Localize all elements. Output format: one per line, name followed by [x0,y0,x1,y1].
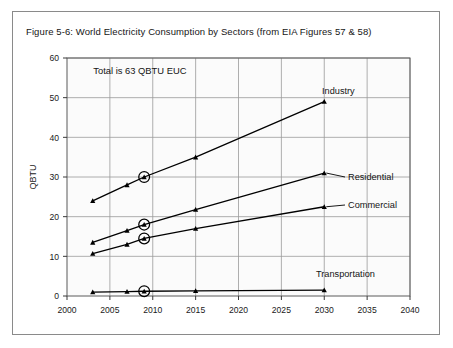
x-axis-tick-label: 2025 [272,305,291,315]
y-axis-tick-label: 50 [49,93,59,103]
x-axis-tick-label: 2000 [57,305,76,315]
series-label-industry: Industry [322,86,355,96]
y-axis-tick-label: 10 [49,252,59,262]
series-label-residential: Residential [348,172,393,182]
y-axis-title: QBTU [28,164,38,189]
x-axis-tick-label: 2040 [400,305,419,315]
y-axis-tick-label: 20 [49,212,59,222]
y-axis-tick-label: 40 [49,133,59,143]
series-label-commercial: Commercial [348,200,397,210]
y-axis-tick-label: 30 [49,172,59,182]
chart-plot-area: 0102030405060200020052010201520202025203… [0,0,453,348]
figure-container: Figure 5-6: World Electricity Consumptio… [0,0,453,348]
x-axis-tick-label: 2015 [186,305,205,315]
x-axis-tick-label: 2020 [229,305,248,315]
chart-annotation: Total is 63 QBTU EUC [93,65,186,76]
x-axis-tick-label: 2030 [315,305,334,315]
series-label-transportation: Transportation [316,269,375,279]
x-axis-tick-label: 2035 [358,305,377,315]
x-axis-tick-label: 2010 [143,305,162,315]
y-axis-tick-label: 0 [54,291,59,301]
x-axis-tick-label: 2005 [100,305,119,315]
y-axis-tick-label: 60 [49,53,59,63]
